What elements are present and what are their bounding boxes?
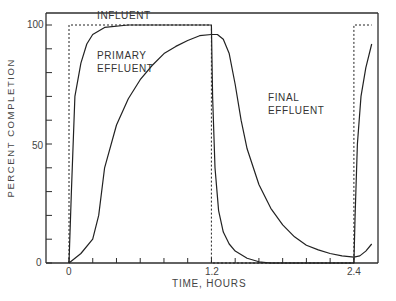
x-tick-label-0: 0 [66,267,72,277]
annotation-primary-effluent-line2: EFFLUENT [97,63,153,74]
y-tick-label-0: 0 [36,258,42,268]
annotation-final-effluent-line1: FINAL [268,92,299,103]
y-axis-label: PERCENT COMPLETION [5,88,16,198]
x-tick-label-2-4: 2.4 [347,267,361,277]
x-tick-label-1-2: 1.2 [205,267,219,277]
y-tick-label-50: 50 [32,141,43,151]
chart-canvas [0,0,396,301]
y-axis-ticks [46,25,52,263]
x-axis-label: TIME, HOURS [172,278,246,289]
y-tick-label-100: 100 [27,20,44,30]
annotation-final-effluent-line2: EFFLUENT [268,105,324,116]
annotation-influent: INFLUENT [97,10,151,21]
annotation-primary-effluent-line1: PRIMARY [97,50,147,61]
